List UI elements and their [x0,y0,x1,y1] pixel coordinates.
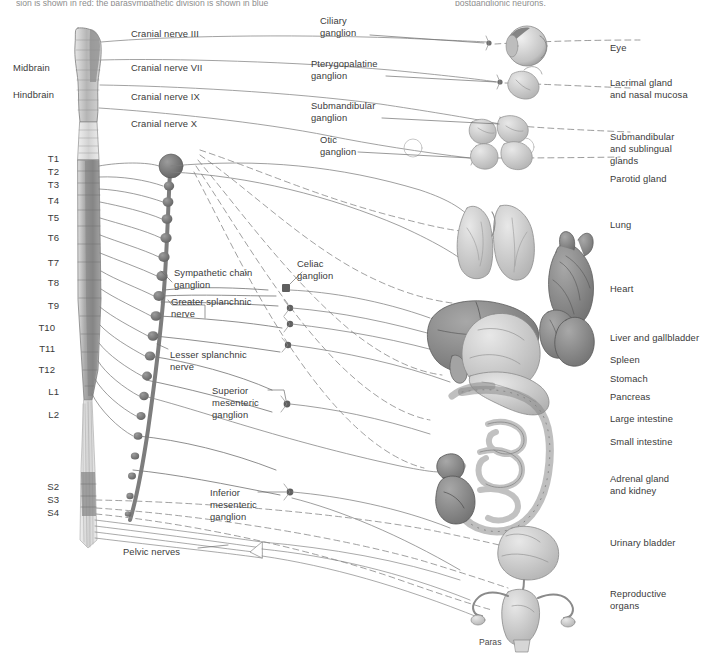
organ-label-lacrimal-line2: and nasal mucosa [610,89,688,101]
brain-label-midbrain: Midbrain [13,62,50,74]
inferior-mesenteric-ganglion-label-line1: Inferior [210,487,240,499]
spinal-segment-T5: T5 [33,212,59,223]
organ-label-parotid: Parotid gland [610,173,667,185]
parotid-gland-illustration [470,142,532,170]
eye-illustration [506,26,547,66]
organ-label-lung: Lung [610,219,631,231]
organ-label-adrenal-line2: and kidney [610,485,656,497]
pterygopalatine-ganglion-label-line2: ganglion [311,70,347,82]
inferior-mesenteric-ganglion-label-line3: ganglion [210,511,246,523]
postganglionic-sympathetic-fibers [144,163,478,570]
pterygopalatine-ganglion-label-line1: Pterygopalatine [311,58,378,70]
salivary-glands-illustration [469,116,528,144]
spinal-segment-T10: T10 [29,322,55,333]
otic-ganglion-label-line2: ganglion [320,146,356,158]
lesser-splanchnic-nerve-label-line2: nerve [170,361,194,373]
spinal-segment-S4: S4 [33,507,59,518]
spinal-segment-T6: T6 [33,232,59,243]
brainstem-and-spinal-cord [75,28,101,548]
submandibular-ganglion-label-line1: Submandibular [311,100,375,112]
organ-label-stomach: Stomach [610,373,648,385]
celiac-ganglion-label-line1: Celiac [297,258,324,270]
autonomic-nervous-system-artwork [0,0,712,655]
bottom-truncated-note: Paras [479,637,501,647]
urinary-bladder-illustration [498,526,559,600]
superior-mesenteric-ganglion-label-line3: ganglion [212,409,248,421]
lacrimal-gland-illustration [508,67,542,100]
submandibular-ganglion-label-line2: ganglion [311,112,347,124]
spinal-segment-T3: T3 [33,179,59,190]
greater-splanchnic-nerve-label-line2: nerve [171,308,195,320]
organ-label-adrenal-line1: Adrenal gland [610,473,669,485]
organ-label-pancreas: Pancreas [610,391,650,403]
sympathetic-chain-ganglion-label-line2: ganglion [174,279,210,291]
spinal-segment-T7: T7 [33,257,59,268]
organ-label-salivary-line2: and sublingual [610,143,672,155]
sympathetic-chain [125,154,183,520]
ciliary-ganglion-label-line1: Ciliary [320,15,347,27]
cranial-nerve-iii-label: Cranial nerve III [131,28,199,40]
cranial-nerve-vii-label: Cranial nerve VII [131,62,203,74]
spinal-segment-L1: L1 [33,386,59,397]
organ-label-salivary-line3: glands [610,155,638,167]
pelvic-nerve-bundle [95,520,480,618]
organ-label-spleen: Spleen [610,354,640,366]
spinal-segment-T11: T11 [29,343,55,354]
organ-label-salivary-line1: Submandibular [610,131,674,143]
ciliary-ganglion-label-line2: ganglion [320,27,356,39]
small-intestine-illustration [479,422,525,520]
organ-label-heart: Heart [610,283,633,295]
organ-label-large-intestine: Large intestine [610,413,673,425]
cranial-nerve-x-label: Cranial nerve X [131,118,197,130]
spinal-segment-T2: T2 [33,166,59,177]
cranial-nerve-ix-label: Cranial nerve IX [131,91,200,103]
spinal-segment-T12: T12 [29,364,55,375]
organ-label-lacrimal-line1: Lacrimal gland [610,77,672,89]
spinal-segment-T9: T9 [33,300,59,311]
spinal-segment-S3: S3 [33,494,59,505]
spinal-segment-T8: T8 [33,277,59,288]
otic-ganglion-label-line1: Otic [320,134,337,146]
spinal-segment-S2: S2 [33,481,59,492]
organ-label-liver: Liver and gallbladder [610,332,699,344]
organ-label-eye: Eye [610,42,626,54]
figure-canvas: sion is shown in red; the parasympatheti… [0,0,712,655]
brain-label-hindbrain: Hindbrain [13,89,54,101]
organ-label-urinary-bladder: Urinary bladder [610,537,676,549]
prevertebral-ganglia [281,284,293,500]
organ-label-small-intestine: Small intestine [610,436,672,448]
superior-mesenteric-ganglion-label-line1: Superior [212,385,248,397]
spinal-segment-T1: T1 [33,153,59,164]
pelvic-nerves-label: Pelvic nerves [123,546,180,558]
greater-splanchnic-nerve-label-line1: Greater splanchnic [171,296,252,308]
organ-label-reproductive-line2: organs [610,600,639,612]
inferior-mesenteric-ganglion-label-line2: mesenteric [210,499,257,511]
organ-label-reproductive-line1: Reproductive [610,588,666,600]
lesser-splanchnic-nerve-label-line1: Lesser splanchnic [170,349,247,361]
celiac-ganglion-label-line2: ganglion [297,270,333,282]
superior-mesenteric-ganglion-label-line2: mesenteric [212,397,259,409]
lung-illustration [457,205,534,280]
sympathetic-chain-ganglion-label-line1: Sympathetic chain [174,267,252,279]
spinal-segment-T4: T4 [33,195,59,206]
spinal-segment-L2: L2 [33,409,59,420]
